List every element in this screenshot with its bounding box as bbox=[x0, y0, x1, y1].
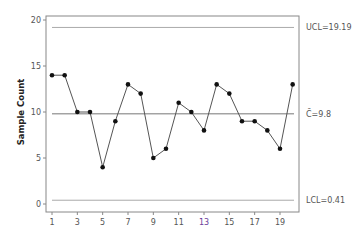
data-point-marker bbox=[290, 82, 295, 87]
data-point-marker bbox=[138, 91, 143, 96]
y-tick-label: 10 bbox=[31, 108, 41, 117]
data-point-marker bbox=[202, 128, 207, 133]
data-point-marker bbox=[62, 73, 67, 78]
control-chart: 05101520 135791113151719 UCL=19.19C̄=9.8… bbox=[0, 0, 360, 234]
x-tick-label: 5 bbox=[100, 218, 105, 227]
ucl-label: UCL=19.19 bbox=[306, 23, 352, 32]
x-tick-label: 17 bbox=[250, 218, 260, 227]
x-tick-label: 7 bbox=[125, 218, 130, 227]
x-tick-label: 13 bbox=[199, 218, 209, 227]
x-tick-label: 3 bbox=[75, 218, 80, 227]
x-tick-label: 9 bbox=[151, 218, 156, 227]
y-tick-label: 15 bbox=[31, 62, 41, 71]
x-tick-label: 15 bbox=[224, 218, 234, 227]
data-point-marker bbox=[176, 101, 181, 106]
data-point-marker bbox=[252, 119, 257, 124]
y-tick-label: 0 bbox=[36, 200, 41, 209]
data-point-marker bbox=[113, 119, 118, 124]
x-tick-label: 11 bbox=[174, 218, 184, 227]
data-point-marker bbox=[265, 128, 270, 133]
data-point-marker bbox=[240, 119, 245, 124]
y-tick-label: 20 bbox=[31, 16, 41, 25]
center-label: C̄=9.8 bbox=[306, 108, 331, 118]
data-point-marker bbox=[151, 156, 156, 161]
data-point-marker bbox=[227, 91, 232, 96]
data-point-marker bbox=[214, 82, 219, 87]
x-axis: 135791113151719 bbox=[49, 212, 285, 227]
y-axis: 05101520 bbox=[31, 16, 46, 209]
data-point-marker bbox=[100, 165, 105, 170]
data-point-marker bbox=[50, 73, 55, 78]
data-point-marker bbox=[88, 110, 93, 115]
data-point-marker bbox=[189, 110, 194, 115]
lcl-label: LCL=0.41 bbox=[306, 196, 345, 205]
data-point-marker bbox=[278, 147, 283, 152]
data-point-marker bbox=[164, 147, 169, 152]
data-point-marker bbox=[75, 110, 80, 115]
y-axis-title: Sample Count bbox=[16, 79, 26, 146]
x-tick-label: 19 bbox=[275, 218, 285, 227]
x-tick-label: 1 bbox=[49, 218, 54, 227]
data-point-marker bbox=[126, 82, 131, 87]
y-tick-label: 5 bbox=[36, 154, 41, 163]
